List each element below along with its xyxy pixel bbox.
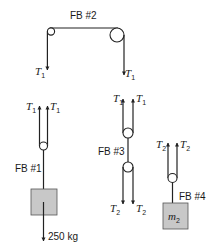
- fb2-right-force-label: T1: [125, 67, 135, 81]
- fb2-label: FB #2: [70, 10, 97, 21]
- fb2-left-force-label: T1: [35, 65, 45, 79]
- fb3-label: FB #3: [98, 146, 125, 157]
- fb2-small-pulley: [47, 28, 54, 35]
- fb1-group: T1 T1 FB #1 250 kg: [15, 100, 78, 242]
- fb1-label: FB #1: [15, 163, 42, 174]
- fb3-top-left-force-label: T1: [113, 92, 123, 106]
- fb4-group: T2 T2 FB #4 m2: [156, 138, 206, 229]
- fb3-top-right-force-label: T1: [136, 92, 146, 106]
- fb4-pulley: [168, 174, 177, 183]
- fb1-pulley: [40, 142, 48, 150]
- fb3-bottom-right-force-label: T2: [136, 202, 146, 216]
- fb4-right-force-label: T2: [180, 138, 190, 152]
- fb3-group: T1 T1 FB #3 T2 T2: [98, 92, 146, 216]
- fb1-left-force-label: T1: [26, 100, 36, 114]
- pulley-free-body-diagram: FB #2 T1 T1 T1 T1 FB #1 250 kg T1 T1 FB …: [0, 0, 214, 252]
- fb2-group: FB #2 T1 T1: [35, 10, 135, 81]
- fb4-left-force-label: T2: [156, 138, 166, 152]
- fb3-bottom-pulley: [123, 162, 133, 172]
- fb2-large-pulley: [110, 28, 124, 42]
- fb1-weight-label: 250 kg: [48, 231, 78, 242]
- fb1-right-force-label: T1: [50, 100, 60, 114]
- fb3-top-pulley: [123, 128, 133, 138]
- fb3-bottom-left-force-label: T2: [110, 202, 120, 216]
- fb4-label: FB #4: [179, 191, 206, 202]
